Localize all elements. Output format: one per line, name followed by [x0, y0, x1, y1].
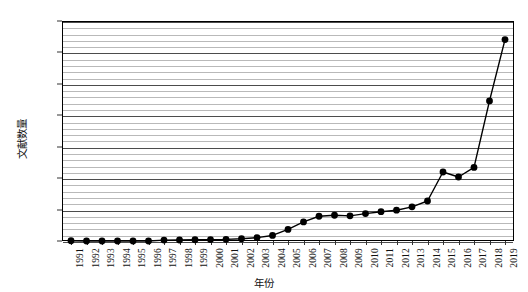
x-axis-tick-mark	[459, 241, 460, 245]
x-axis-tick-mark	[319, 241, 320, 245]
x-axis-tick-label: 1994	[122, 248, 132, 268]
x-axis-tick-label: 2002	[246, 248, 256, 268]
x-axis-tick-label: 1999	[199, 248, 209, 268]
x-axis-tick-label: 2014	[432, 248, 442, 268]
gridline-minor	[63, 229, 513, 230]
x-axis-tick-mark	[257, 241, 258, 245]
plot-area	[62, 21, 514, 241]
x-axis-tick-label: 1993	[106, 248, 116, 268]
x-axis-tick-mark	[397, 241, 398, 245]
gridline-minor	[63, 41, 513, 42]
gridline-major	[63, 53, 513, 54]
gridline-minor	[63, 198, 513, 199]
gridline-minor	[63, 167, 513, 168]
x-axis-tick-label: 1995	[137, 248, 147, 268]
gridline-minor	[63, 154, 513, 155]
gridline-minor	[63, 217, 513, 218]
x-axis-tick-mark	[505, 241, 506, 245]
gridline-minor	[63, 123, 513, 124]
x-axis-tick-mark	[149, 241, 150, 245]
gridline-major	[63, 22, 513, 23]
x-axis-tick-label: 2016	[463, 248, 473, 268]
y-axis-tick-mark	[57, 21, 62, 22]
x-axis-tick-label: 1997	[168, 248, 178, 268]
gridline-minor	[63, 160, 513, 161]
gridline-minor	[63, 104, 513, 105]
gridline-minor	[63, 28, 513, 29]
x-axis-tick-mark	[350, 241, 351, 245]
y-axis-tick-mark	[57, 241, 62, 242]
x-axis-tick-mark	[304, 241, 305, 245]
x-axis-tick-mark	[242, 241, 243, 245]
x-axis-tick-mark	[87, 241, 88, 245]
x-axis-tick-label: 2009	[354, 248, 364, 268]
x-axis-tick-label: 1996	[153, 248, 163, 268]
x-axis-tick-mark	[381, 241, 382, 245]
gridline-major	[63, 116, 513, 117]
y-axis-tick-mark	[57, 209, 62, 210]
x-axis-tick-label: 2007	[323, 248, 333, 268]
x-axis-tick-mark	[180, 241, 181, 245]
x-axis-tick-label: 1992	[91, 248, 101, 268]
x-axis-tick-mark	[428, 241, 429, 245]
x-axis-tick-label: 2004	[277, 248, 287, 268]
x-axis-tick-mark	[288, 241, 289, 245]
x-axis-tick-label: 2006	[308, 248, 318, 268]
x-axis-tick-label: 2011	[385, 248, 395, 267]
gridline-minor	[63, 192, 513, 193]
gridline-minor	[63, 129, 513, 130]
x-axis-tick-mark	[102, 241, 103, 245]
x-axis-title: 年份	[0, 275, 528, 290]
y-axis-tick-mark	[57, 52, 62, 53]
y-axis-tick-mark	[57, 115, 62, 116]
x-axis-tick-mark	[164, 241, 165, 245]
x-axis-tick-label: 2018	[494, 248, 504, 268]
gridline-minor	[63, 91, 513, 92]
x-axis-tick-label: 2005	[292, 248, 302, 268]
x-axis-tick-label: 2000	[215, 248, 225, 268]
gridline-major	[63, 179, 513, 180]
gridline-minor	[63, 66, 513, 67]
x-axis-tick-mark	[412, 241, 413, 245]
gridline-minor	[63, 236, 513, 237]
x-axis-tick-mark	[335, 241, 336, 245]
x-axis-tick-label: 2001	[230, 248, 240, 268]
x-axis-tick-mark	[133, 241, 134, 245]
gridline-minor	[63, 97, 513, 98]
gridline-minor	[63, 185, 513, 186]
gridline-minor	[63, 47, 513, 48]
x-axis-tick-label: 1998	[184, 248, 194, 268]
x-axis-tick-mark	[118, 241, 119, 245]
x-axis-tick-label: 2019	[509, 248, 519, 268]
x-axis-tick-label: 2003	[261, 248, 271, 268]
x-axis-tick-mark	[474, 241, 475, 245]
gridline-minor	[63, 141, 513, 142]
gridline-major	[63, 85, 513, 86]
y-axis-title: 文献数量	[14, 94, 29, 184]
gridline-major	[63, 148, 513, 149]
gridline-minor	[63, 223, 513, 224]
gridline-minor	[63, 204, 513, 205]
y-axis-tick-mark	[57, 146, 62, 147]
x-axis-tick-label: 2015	[447, 248, 457, 268]
x-axis-tick-label: 2010	[370, 248, 380, 268]
x-axis-tick-label: 1991	[75, 248, 85, 268]
chart-container: 02505007501000125015001750 文献数量 19911992…	[0, 0, 528, 292]
gridline-minor	[63, 72, 513, 73]
gridline-minor	[63, 79, 513, 80]
y-axis-tick-mark	[57, 178, 62, 179]
gridline-minor	[63, 135, 513, 136]
y-axis-tick-mark	[57, 83, 62, 84]
x-axis-tick-mark	[211, 241, 212, 245]
x-axis-tick-label: 2008	[339, 248, 349, 268]
gridline-minor	[63, 110, 513, 111]
x-axis-tick-mark	[226, 241, 227, 245]
x-axis-tick-label: 2013	[416, 248, 426, 268]
gridline-minor	[63, 60, 513, 61]
x-axis-tick-mark	[490, 241, 491, 245]
gridline-minor	[63, 173, 513, 174]
gridline-major	[63, 211, 513, 212]
x-axis-tick-label: 2012	[401, 248, 411, 268]
x-axis-tick-mark	[366, 241, 367, 245]
gridline-minor	[63, 35, 513, 36]
